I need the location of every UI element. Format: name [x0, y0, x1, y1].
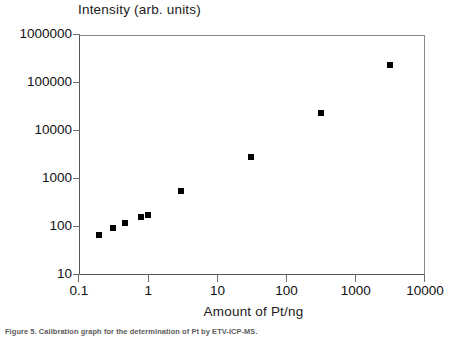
- data-point: [96, 232, 102, 238]
- y-axis-tick: [73, 178, 80, 179]
- x-axis-tick-label: 1000: [316, 283, 396, 298]
- y-axis-tick-label: 1000: [0, 170, 72, 185]
- plot-area: [79, 35, 425, 275]
- x-axis-tick-label: 10000: [385, 283, 455, 298]
- data-point: [138, 214, 144, 220]
- figure-scatter-plot: Intensity (arb. units) 10100100010000100…: [0, 0, 455, 338]
- x-axis-tick: [286, 275, 287, 282]
- data-point: [122, 220, 128, 226]
- y-axis-tick: [73, 130, 80, 131]
- x-axis-tick: [217, 275, 218, 282]
- x-axis-tick-label: 0.1: [39, 283, 119, 298]
- x-axis-tick: [424, 275, 425, 282]
- data-points-layer: [80, 36, 424, 274]
- y-axis-tick-label: 10000: [0, 122, 72, 137]
- x-axis-title: Amount of Pt/ng: [0, 304, 455, 319]
- x-axis-tick-label: 1: [108, 283, 188, 298]
- x-axis-title-text: Amount of Pt/ng: [152, 304, 304, 319]
- y-axis-tick: [73, 226, 80, 227]
- y-axis-tick: [73, 34, 80, 35]
- y-axis-tick: [73, 82, 80, 83]
- data-point: [178, 188, 184, 194]
- x-axis-tick-label: 100: [247, 283, 327, 298]
- y-axis-tick-label: 1000000: [0, 26, 72, 41]
- y-axis-tick-label: 10: [0, 266, 72, 281]
- y-axis-tick-label: 100000: [0, 74, 72, 89]
- figure-caption: Figure 5. Calibration graph for the dete…: [5, 327, 455, 336]
- chart-title: Intensity (arb. units): [78, 2, 201, 17]
- data-point: [318, 110, 324, 116]
- x-axis-tick: [78, 275, 79, 282]
- x-axis-tick-label: 10: [177, 283, 257, 298]
- x-axis-tick: [148, 275, 149, 282]
- y-axis-tick-label: 100: [0, 218, 72, 233]
- data-point: [145, 212, 151, 218]
- data-point: [110, 225, 116, 231]
- data-point: [248, 154, 254, 160]
- x-axis-tick: [355, 275, 356, 282]
- data-point: [387, 62, 393, 68]
